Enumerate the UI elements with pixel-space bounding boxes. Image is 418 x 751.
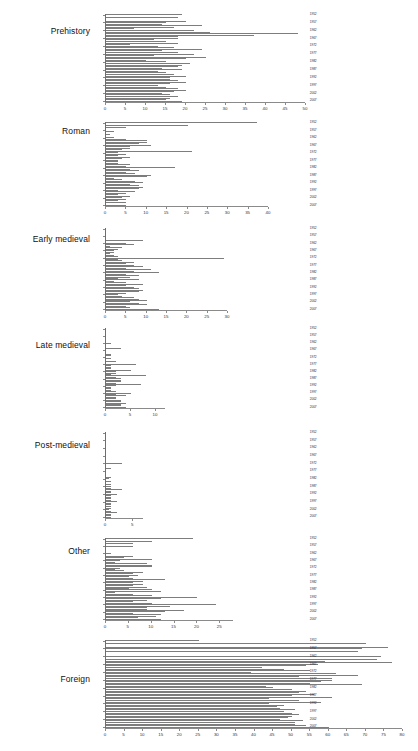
- x-tick-label-prehistory-5: 5: [118, 106, 132, 111]
- y-tick-prehistory-1992: [103, 77, 105, 78]
- panel-title-other: Other: [0, 546, 90, 556]
- bar: [106, 640, 199, 641]
- y-tick-label-other-1972: 1972: [310, 566, 317, 569]
- y-tick-post-medieval-1997: [103, 502, 105, 503]
- x-tick-label-early-medieval-25: 25: [200, 314, 214, 319]
- x-tick-foreign-55: [309, 729, 310, 731]
- y-tick-early-medieval-2007: [103, 309, 105, 310]
- y-tick-label-other-1977: 1977: [310, 574, 317, 577]
- bar: [106, 240, 143, 241]
- bar: [106, 656, 381, 657]
- y-tick-other-1957: [103, 546, 105, 547]
- y-tick-foreign-1962: [103, 656, 105, 657]
- y-tick-label-late-medieval-1997: 1997: [310, 391, 317, 394]
- x-tick-foreign-0: [105, 729, 106, 731]
- x-axis-line-post-medieval: [105, 518, 143, 519]
- x-tick-foreign-40: [254, 729, 255, 731]
- bar: [106, 343, 111, 344]
- bar: [106, 517, 111, 518]
- x-tick-label-foreign-20: 20: [172, 732, 186, 737]
- y-tick-label-other-1957: 1957: [310, 544, 317, 547]
- x-tick-roman-10: [146, 207, 147, 209]
- y-tick-label-early-medieval-1967: 1967: [310, 249, 317, 252]
- x-tick-other-10: [151, 621, 152, 623]
- y-tick-label-prehistory-1977: 1977: [310, 52, 317, 55]
- y-tick-post-medieval-1992: [103, 494, 105, 495]
- y-tick-label-early-medieval-1952: 1952: [310, 227, 317, 230]
- x-axis-line-late-medieval: [105, 408, 165, 409]
- bar: [106, 17, 178, 18]
- y-tick-label-late-medieval-2007: 2007: [310, 406, 317, 409]
- x-tick-early-medieval-0: [105, 311, 106, 313]
- y-tick-label-prehistory-1992: 1992: [310, 76, 317, 79]
- y-tick-prehistory-1962: [103, 30, 105, 31]
- x-tick-roman-5: [125, 207, 126, 209]
- y-tick-late-medieval-1952: [103, 329, 105, 330]
- bar: [106, 309, 159, 310]
- x-tick-prehistory-30: [225, 103, 226, 105]
- y-tick-early-medieval-1992: [103, 287, 105, 288]
- plot-area-late-medieval: 0510: [105, 328, 165, 408]
- x-tick-late-medieval-0: [105, 409, 106, 411]
- y-tick-roman-1977: [103, 160, 105, 161]
- y-tick-other-1952: [103, 539, 105, 540]
- y-tick-prehistory-2002: [103, 93, 105, 94]
- bar: [106, 202, 126, 203]
- x-tick-label-early-medieval-15: 15: [159, 314, 173, 319]
- bar: [106, 553, 111, 554]
- y-tick-label-prehistory-2002: 2002: [310, 92, 317, 95]
- y-tick-post-medieval-1972: [103, 463, 105, 464]
- y-tick-label-post-medieval-1952: 1952: [310, 431, 317, 434]
- x-tick-other-0: [105, 621, 106, 623]
- y-tick-other-1967: [103, 560, 105, 561]
- x-axis-line-other: [105, 620, 233, 621]
- y-tick-prehistory-1977: [103, 54, 105, 55]
- y-tick-label-post-medieval-1972: 1972: [310, 462, 317, 465]
- y-tick-label-late-medieval-1972: 1972: [310, 356, 317, 359]
- x-tick-label-post-medieval-5: 5: [125, 522, 139, 527]
- x-tick-prehistory-25: [205, 103, 206, 105]
- x-tick-label-other-15: 15: [167, 624, 181, 629]
- y-tick-foreign-2002: [103, 719, 105, 720]
- y-tick-other-1977: [103, 575, 105, 576]
- y-tick-late-medieval-1987: [103, 379, 105, 380]
- x-tick-label-foreign-50: 50: [284, 732, 298, 737]
- x-tick-label-roman-20: 20: [180, 210, 194, 215]
- y-tick-label-post-medieval-1992: 1992: [310, 492, 317, 495]
- x-tick-prehistory-15: [165, 103, 166, 105]
- x-tick-label-prehistory-30: 30: [218, 106, 232, 111]
- x-tick-roman-20: [187, 207, 188, 209]
- x-tick-foreign-70: [365, 729, 366, 731]
- bar: [106, 131, 114, 132]
- y-tick-label-other-1962: 1962: [310, 552, 317, 555]
- y-tick-early-medieval-1982: [103, 272, 105, 273]
- bar: [106, 101, 182, 102]
- y-tick-label-other-1967: 1967: [310, 559, 317, 562]
- x-tick-label-roman-40: 40: [261, 210, 275, 215]
- x-tick-early-medieval-15: [166, 311, 167, 313]
- x-tick-roman-25: [207, 207, 208, 209]
- y-tick-label-roman-2007: 2007: [310, 204, 317, 207]
- x-tick-label-prehistory-20: 20: [178, 106, 192, 111]
- y-tick-label-foreign-1962: 1962: [310, 655, 317, 658]
- x-tick-foreign-65: [346, 729, 347, 731]
- x-tick-prehistory-0: [105, 103, 106, 105]
- y-tick-label-late-medieval-1987: 1987: [310, 377, 317, 380]
- y-tick-foreign-1997: [103, 711, 105, 712]
- y-tick-early-medieval-1957: [103, 236, 105, 237]
- y-tick-early-medieval-2002: [103, 302, 105, 303]
- x-tick-label-roman-0: 0: [98, 210, 112, 215]
- y-tick-label-foreign-1987: 1987: [310, 694, 317, 697]
- bar: [106, 14, 182, 15]
- bar: [106, 478, 109, 479]
- y-tick-label-prehistory-1982: 1982: [310, 60, 317, 63]
- x-tick-label-post-medieval-0: 0: [98, 522, 112, 527]
- x-tick-foreign-10: [142, 729, 143, 731]
- x-tick-label-foreign-25: 25: [191, 732, 205, 737]
- y-tick-early-medieval-1977: [103, 265, 105, 266]
- x-tick-label-roman-15: 15: [159, 210, 173, 215]
- panel-title-late-medieval: Late medieval: [0, 340, 90, 350]
- y-tick-foreign-1967: [103, 664, 105, 665]
- bar: [106, 205, 126, 206]
- y-tick-prehistory-1982: [103, 62, 105, 63]
